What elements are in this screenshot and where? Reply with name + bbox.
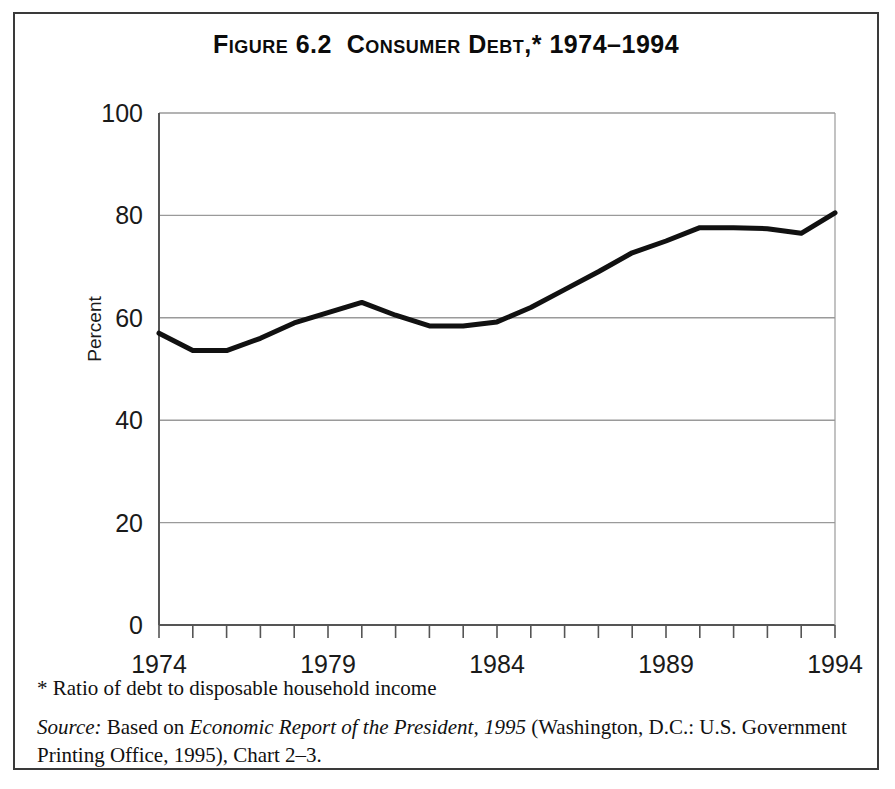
chart-plot-area: 020406080100 19741979198419891994 Percen… (15, 74, 881, 674)
figure-title: Figure 6.2 Consumer Debt,* 1974–1994 (15, 30, 877, 59)
y-tick-label-0: 0 (129, 611, 143, 639)
y-tick-label-80: 80 (115, 201, 143, 229)
y-tick-label-100: 100 (101, 99, 143, 127)
x-axis-tick-labels-group: 19741979198419891994 (131, 650, 863, 674)
source-text-lead: Based on (102, 715, 190, 739)
series-line-0 (159, 213, 835, 351)
axes-group (159, 113, 835, 625)
x-axis-ticks-group (159, 625, 835, 638)
source-label: Source: (37, 715, 102, 739)
x-tick-label-1989: 1989 (638, 650, 694, 674)
source-publication-title: Economic Report of the President, 1995 (190, 715, 526, 739)
y-axis-tick-labels-group: 020406080100 (101, 99, 143, 639)
x-tick-label-1979: 1979 (300, 650, 356, 674)
x-tick-label-1984: 1984 (469, 650, 525, 674)
y-tick-label-20: 20 (115, 509, 143, 537)
consumer-debt-line-chart: 020406080100 19741979198419891994 Percen… (15, 74, 881, 674)
x-tick-label-1994: 1994 (807, 650, 863, 674)
figure-frame: Figure 6.2 Consumer Debt,* 1974–1994 020… (13, 12, 879, 770)
figure-footnote: * Ratio of debt to disposable household … (37, 676, 437, 701)
data-series-line-group (159, 213, 835, 351)
y-axis-title: Percent (84, 296, 105, 362)
gridlines-group (159, 113, 835, 523)
figure-source-note: Source: Based on Economic Report of the … (37, 714, 865, 769)
y-axis-title-group: Percent (84, 296, 105, 362)
y-tick-label-60: 60 (115, 304, 143, 332)
x-tick-label-1974: 1974 (131, 650, 187, 674)
y-tick-label-40: 40 (115, 406, 143, 434)
